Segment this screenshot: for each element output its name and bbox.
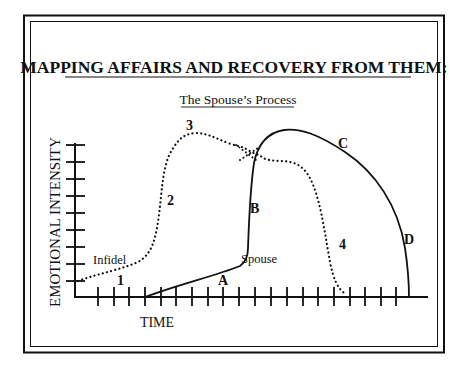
infidel-stage-1: 1 — [117, 273, 124, 288]
diagram-subtitle: The Spouse’s Process — [180, 92, 297, 107]
infidel-stage-3: 3 — [186, 118, 193, 133]
axes — [74, 143, 428, 298]
infidel-label: Infidel — [93, 253, 127, 267]
infidel-curve — [78, 133, 346, 294]
spouse-stage-c: C — [338, 136, 348, 151]
y-axis-label: EMOTIONAL INTENSITY — [46, 137, 63, 307]
spouse-curve — [145, 130, 409, 297]
infidel-stage-2: 2 — [167, 193, 174, 208]
infidel-stage-4: 4 — [339, 237, 346, 252]
diagram-title: MAPPING AFFAIRS AND RECOVERY FROM THEM: — [20, 57, 447, 77]
spouse-stage-a: A — [218, 273, 229, 288]
spouse-stage-b: B — [250, 201, 259, 216]
x-axis-label: TIME — [140, 315, 174, 330]
spouse-label: Spouse — [241, 252, 278, 266]
spouse-stage-d: D — [404, 232, 414, 247]
affair-recovery-diagram: MAPPING AFFAIRS AND RECOVERY FROM THEM: … — [0, 0, 467, 372]
